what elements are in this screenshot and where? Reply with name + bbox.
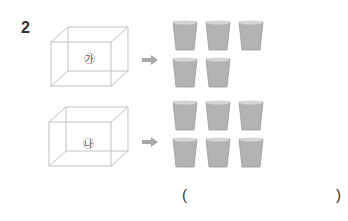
box-label-a: ㉮ bbox=[84, 50, 95, 66]
answer-paren-open: ( bbox=[182, 186, 187, 203]
cup-icon bbox=[172, 20, 198, 51]
cup-icon bbox=[205, 20, 231, 51]
cup-icon bbox=[172, 137, 198, 168]
cup-icon bbox=[205, 100, 231, 131]
box-a: ㉮ bbox=[50, 25, 130, 90]
cup-icon bbox=[172, 57, 198, 88]
answer-blank[interactable] bbox=[195, 186, 335, 204]
arrow-right-icon-b bbox=[142, 133, 158, 143]
cup-icon bbox=[172, 100, 198, 131]
box-b: ㉯ bbox=[48, 105, 130, 170]
box-label-b: ㉯ bbox=[83, 135, 94, 151]
cup-icon bbox=[238, 100, 264, 131]
cup-icon bbox=[205, 137, 231, 168]
arrow-right-icon-a bbox=[142, 51, 158, 61]
cup-icon bbox=[205, 57, 231, 88]
question-number: 2 bbox=[21, 19, 30, 37]
answer-paren-close: ) bbox=[336, 186, 341, 203]
cup-icon bbox=[238, 137, 264, 168]
cup-icon bbox=[238, 20, 264, 51]
